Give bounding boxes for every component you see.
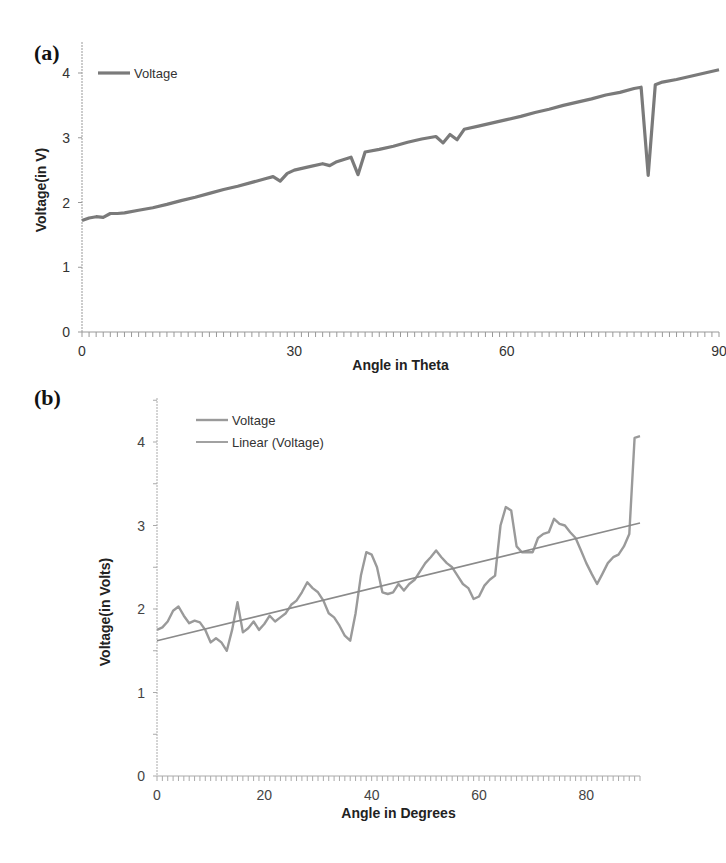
y-tick-label: 0 <box>137 768 145 784</box>
x-tick-label: 20 <box>257 787 273 803</box>
x-tick-label: 90 <box>711 343 726 359</box>
x-tick-label: 80 <box>579 787 595 803</box>
y-tick-label: 4 <box>137 434 145 450</box>
x-tick-label: 0 <box>78 343 86 359</box>
y-tick-label: 0 <box>62 324 70 340</box>
figure-canvas: 030609001234Angle in ThetaVoltage(in V)V… <box>0 0 726 863</box>
voltage-series-line <box>82 70 719 221</box>
y-axis-title: Voltage(in V) <box>33 148 49 233</box>
legend-label: Voltage <box>232 413 275 428</box>
x-tick-label: 40 <box>364 787 380 803</box>
chart-b: 02040608001234Angle in DegreesVoltage(in… <box>97 398 640 821</box>
y-tick-label: 3 <box>62 130 70 146</box>
y-tick-label: 1 <box>62 259 70 275</box>
x-tick-label: 30 <box>287 343 303 359</box>
y-tick-label: 2 <box>137 601 145 617</box>
voltage-series-line <box>157 436 640 651</box>
linear-trendline <box>157 523 640 641</box>
y-tick-label: 2 <box>62 195 70 211</box>
x-tick-label: 60 <box>499 343 515 359</box>
y-tick-label: 4 <box>62 65 70 81</box>
x-axis-title: Angle in Degrees <box>341 805 456 821</box>
y-axis-title: Voltage(in Volts) <box>97 558 113 666</box>
y-tick-label: 3 <box>137 518 145 534</box>
x-tick-label: 0 <box>153 787 161 803</box>
x-tick-label: 60 <box>471 787 487 803</box>
x-axis-title: Angle in Theta <box>352 357 449 373</box>
legend-label: Linear (Voltage) <box>232 435 324 450</box>
legend-label: Voltage <box>134 66 177 81</box>
y-tick-label: 1 <box>137 685 145 701</box>
chart-a: 030609001234Angle in ThetaVoltage(in V)V… <box>33 42 726 373</box>
